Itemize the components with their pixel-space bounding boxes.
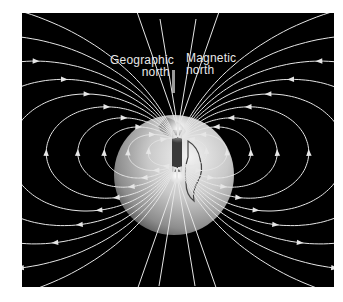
field-arrow-icon <box>252 207 259 212</box>
field-arrow-icon <box>228 115 235 120</box>
field-arrow-icon <box>235 195 242 200</box>
earth-globe <box>114 70 234 235</box>
field-arrow-icon <box>113 195 120 200</box>
field-lines-canvas <box>22 13 334 287</box>
field-arrow-icon <box>316 58 323 63</box>
field-arrow-icon <box>248 149 253 156</box>
geographic-axis <box>172 70 175 93</box>
magnetic-field-diagram: Geographic north Magnetic north <box>22 13 334 287</box>
magnetic-north-label: Magnetic north <box>186 52 246 76</box>
field-arrow-icon <box>96 207 103 212</box>
field-arrow-icon <box>331 265 334 270</box>
field-arrow-icon <box>121 115 128 120</box>
field-arrow-icon <box>43 149 48 156</box>
field-arrow-icon <box>75 149 80 156</box>
field-arrow-icon <box>297 240 304 245</box>
field-arrow-icon <box>272 222 279 227</box>
field-arrow-icon <box>51 240 58 245</box>
field-arrow-icon <box>265 91 272 96</box>
field-arrow-icon <box>101 149 106 156</box>
field-arrow-icon <box>33 58 40 63</box>
field-arrow-icon <box>76 222 83 227</box>
field-arrow-icon <box>22 265 24 270</box>
field-arrow-icon <box>306 149 311 156</box>
field-arrow-icon <box>245 104 252 109</box>
field-arrow-icon <box>287 77 294 82</box>
field-arrow-icon <box>213 124 220 129</box>
field-arrow-icon <box>103 104 110 109</box>
field-arrow-icon <box>275 149 280 156</box>
geographic-north-label: Geographic north <box>110 54 170 78</box>
field-arrow-icon <box>84 91 91 96</box>
geographic-label-line2: north <box>110 66 170 78</box>
field-arrow-icon <box>61 77 68 82</box>
magnetic-label-line2: north <box>186 64 246 76</box>
